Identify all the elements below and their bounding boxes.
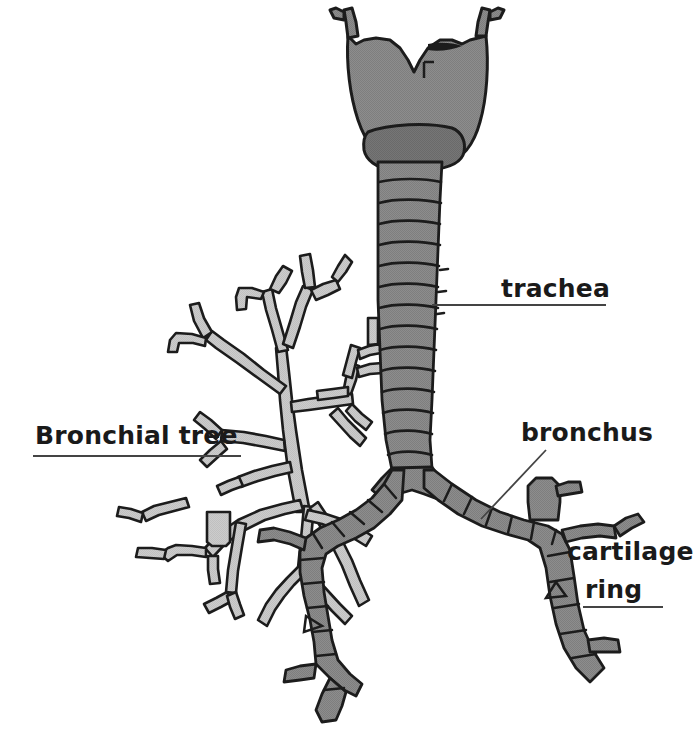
right-bronchus-lower-stub [588,638,620,652]
anatomy-illustration [0,0,696,752]
bronchial-tip-downleft-b [227,592,244,619]
leader-line-bronchus [470,444,560,528]
bronchial-branch-lower-stub [238,462,292,487]
trachea-tube [378,162,442,470]
leader-line-bronchial-tree [33,455,241,457]
bronchial-tip-midright-b [357,363,383,377]
anatomy-figure: trachea Bronchial tree bronchus cartilag… [0,0,696,752]
bronchial-tip-topright-a [300,254,315,288]
label-cartilage: cartilage [567,539,694,565]
trachea-ring-nub-a [440,269,448,270]
left-bronchus-lobe-stub [284,664,316,682]
trachea-ring-nub-b [438,291,446,292]
bronchial-far-left-a [142,498,189,521]
bronchial-tip-lowerleft-b [208,556,220,584]
bronchial-tip-lower-stub [217,477,243,495]
leader-line-cartilage-ring [583,606,663,608]
bronchial-duct-isolated [207,512,230,546]
bronchial-tip-lowerleft-c [136,548,166,559]
bronchial-cluster-right-c [368,318,378,345]
trachea-ring-nub-c [437,313,444,314]
bronchial-tip-upperleft-a [190,303,212,338]
bronchial-cluster-right-b [358,344,381,359]
label-bronchial-tree: Bronchial tree [35,423,238,449]
bronchial-branch-top-right [283,286,313,348]
label-ring: ring [585,577,642,603]
bronchial-far-left-b [117,507,143,522]
label-trachea: trachea [501,276,610,302]
bronchial-trunk-upper [276,346,310,512]
bronchial-tip-lowerleft-a [160,545,206,561]
bronchial-tip-topright-c [332,255,352,282]
bronchial-branch-lower-y-left [258,566,306,626]
leader-line-trachea [432,304,606,306]
trachea-group [378,162,442,470]
thyroid-horn-left-tip [330,8,344,20]
right-bronchus-lateral-tip [614,514,644,536]
bronchial-tip-top-middle-right [270,266,292,293]
thyroid-horn-right [476,8,490,36]
bronchial-tip-top-middle-left [236,288,264,310]
label-bronchus: bronchus [521,420,653,446]
thyroid-horn-left [344,8,358,38]
left-bronchus-side-branch [258,528,306,550]
thyroid-horn-right-tip [490,8,504,20]
bronchial-tip-upperleft-b [168,333,206,352]
